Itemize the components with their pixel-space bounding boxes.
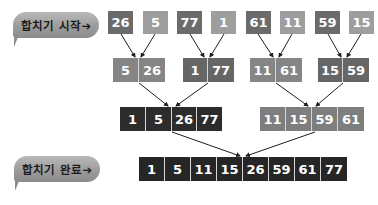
level1-cell: 59	[315, 11, 340, 34]
level3-cell: 1	[120, 107, 146, 131]
level3-cell: 5	[146, 107, 172, 131]
level2-pair: 15 59	[318, 58, 369, 82]
level4-cell: 5	[165, 157, 191, 181]
level2-pair: 1 77	[183, 58, 234, 82]
level2-cell: 26	[139, 58, 165, 82]
level3-group: 11 15 59 61	[260, 107, 364, 131]
level4-cell: 11	[191, 157, 217, 181]
level4-cell: 26	[243, 157, 269, 181]
level3-group: 1 5 26 77	[120, 107, 222, 131]
level4-cell: 15	[217, 157, 243, 181]
level4-cell: 77	[321, 157, 347, 181]
level1-cell: 61	[246, 11, 271, 34]
level2-cell: 61	[276, 58, 302, 82]
level1-cell: 15	[349, 11, 374, 34]
merge-done-label: 합치기 완료➔	[14, 156, 100, 182]
level1-cell: 26	[108, 11, 133, 34]
level2-cell: 1	[183, 58, 208, 82]
level2-pair: 5 26	[113, 58, 165, 82]
level2-cell: 11	[250, 58, 276, 82]
level1-cell: 5	[143, 11, 168, 34]
level2-cell: 77	[208, 58, 234, 82]
level3-cell: 61	[338, 107, 364, 131]
level1-cell: 77	[177, 11, 202, 34]
level3-cell: 15	[286, 107, 312, 131]
level2-cell: 5	[113, 58, 139, 82]
level4-row: 1 5 11 15 26 59 61 77	[139, 157, 347, 181]
level3-cell: 26	[172, 107, 197, 131]
level2-cell: 59	[343, 58, 369, 82]
level3-cell: 11	[260, 107, 286, 131]
level3-cell: 77	[197, 107, 222, 131]
level4-cell: 1	[139, 157, 165, 181]
level2-cell: 15	[318, 58, 343, 82]
merge-start-label: 합치기 시작➔	[13, 12, 99, 38]
level3-cell: 59	[312, 107, 338, 131]
level4-cell: 59	[269, 157, 295, 181]
level2-pair: 11 61	[250, 58, 302, 82]
level4-cell: 61	[295, 157, 321, 181]
level1-cell: 1	[211, 11, 236, 34]
level1-cell: 11	[280, 11, 305, 34]
